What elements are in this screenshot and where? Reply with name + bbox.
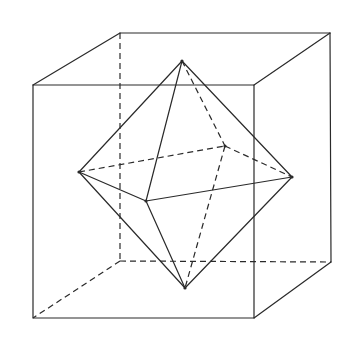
vertex-top — [180, 59, 183, 62]
vertex-left — [77, 170, 80, 173]
cube-top-left-edge — [33, 33, 120, 85]
cube-hidden-back-bottom-edge — [120, 261, 331, 262]
vertex-right — [290, 175, 293, 178]
octahedron — [77, 59, 293, 289]
oct-hidden-left-back-edge — [79, 146, 225, 172]
cube — [33, 33, 331, 318]
cube-bottom-right-edge — [254, 262, 331, 318]
oct-right-bottom-edge — [185, 177, 292, 288]
oct-hidden-back-right-edge — [225, 146, 292, 177]
oct-top-front-edge — [146, 61, 182, 201]
cube-hidden-bottom-left-edge — [33, 261, 120, 318]
cube-top-right-edge — [254, 33, 330, 85]
oct-vertices — [77, 59, 293, 289]
vertex-back — [223, 144, 226, 147]
oct-hidden-top-back-edge — [182, 61, 225, 146]
oct-front-bottom-edge — [146, 201, 185, 288]
oct-left-front-edge — [79, 172, 146, 201]
octahedron-in-cube-diagram — [0, 0, 358, 346]
cube-front-face — [33, 85, 254, 318]
oct-front-right-edge — [146, 177, 292, 201]
oct-left-bottom-edge — [79, 172, 185, 288]
cube-back-right-vertical — [330, 33, 331, 262]
oct-top-left-edge — [79, 61, 182, 172]
vertex-front — [144, 199, 147, 202]
vertex-bottom — [183, 286, 186, 289]
oct-top-right-edge — [182, 61, 292, 177]
